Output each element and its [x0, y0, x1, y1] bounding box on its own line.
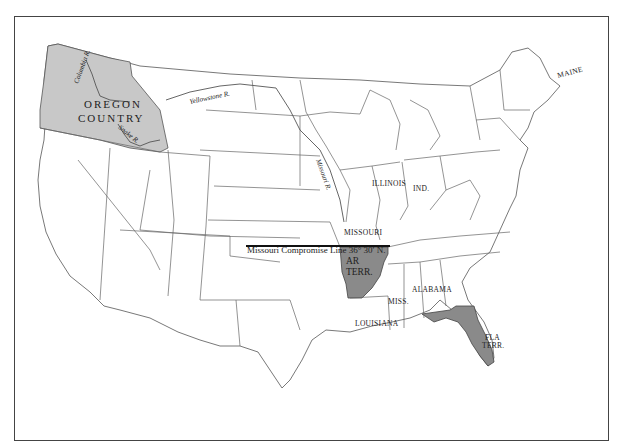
alabama-label: ALABAMA — [412, 285, 452, 294]
oregon-country-label-2: COUNTRY — [78, 112, 145, 124]
oregon-country-label-1: OREGON — [84, 98, 142, 110]
compromise-line-label: Missouri Compromise Line 36° 30′ N. — [247, 245, 386, 255]
us-map-1820: OREGON COUNTRY Columbia R. Snake R. Yell… — [0, 0, 620, 448]
indiana-label: IND. — [413, 184, 429, 193]
illinois-label: ILLINOIS — [372, 179, 406, 188]
mississippi-label: MISS. — [388, 297, 409, 306]
arkansas-territory-label-2: TERR. — [346, 267, 373, 277]
louisiana-label: LOUISIANA — [355, 319, 399, 328]
florida-territory-label-2: TERR. — [482, 341, 505, 350]
maine-label: MAINE — [556, 64, 584, 79]
missouri-label: MISSOURI — [344, 228, 382, 237]
florida-territory-region — [422, 306, 494, 366]
arkansas-territory-label-1: AR — [346, 256, 360, 266]
